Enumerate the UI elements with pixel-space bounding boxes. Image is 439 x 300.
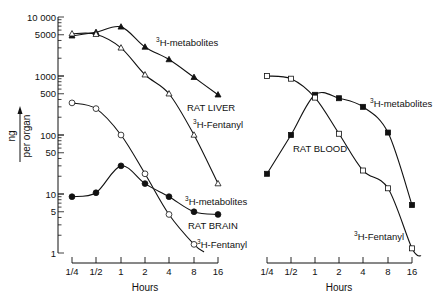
data-point-triangle	[142, 44, 148, 49]
data-point-circle	[93, 106, 99, 112]
data-point-triangle	[215, 180, 221, 185]
annot-liver-fentanyl: 3H-Fentanyl	[193, 118, 243, 130]
y-axis: 10 00050001000500100501051	[27, 12, 64, 259]
data-point-circle	[93, 190, 99, 196]
y-tick-label: 1000	[35, 71, 56, 82]
x-axis-title-left: Hours	[132, 282, 159, 293]
annot-brain-metabolites: 3H-metabolites	[185, 195, 247, 207]
y-tick-label: 5000	[35, 29, 56, 40]
data-point-square	[386, 186, 391, 191]
data-point-square	[265, 171, 270, 176]
data-point-square	[289, 133, 294, 138]
data-point-square	[361, 104, 366, 109]
data-point-circle	[142, 181, 148, 187]
data-point-circle	[166, 194, 172, 200]
data-point-square	[361, 168, 366, 173]
x-tick-label: 4	[360, 266, 365, 277]
data-point-triangle	[191, 74, 197, 79]
annot-rat-brain: RAT BRAIN	[188, 220, 238, 231]
data-point-square	[410, 203, 415, 208]
data-point-circle	[69, 194, 75, 200]
x-axis-title-right: Hours	[326, 282, 353, 293]
y-tick-label: 500	[40, 88, 56, 99]
y-axis-title: ng per organ	[6, 106, 32, 162]
x-tick-label: 1	[312, 266, 317, 277]
data-point-square	[410, 246, 415, 251]
data-point-square	[337, 131, 342, 136]
arrow-up-icon	[18, 106, 23, 114]
data-point-square	[313, 95, 318, 100]
x-tick-label: 16	[407, 266, 418, 277]
y-tick-label: 5	[51, 206, 56, 217]
data-point-circle	[166, 212, 172, 218]
x-tick-label: 16	[213, 266, 224, 277]
series-rat-liver-3h-metabolites	[69, 24, 221, 97]
data-point-circle	[215, 212, 221, 218]
x-tick-label: 1/4	[260, 266, 273, 277]
data-point-circle	[69, 100, 75, 106]
y-label-per-organ: per organ	[21, 115, 32, 158]
series-layer	[69, 24, 421, 256]
annot-blood-metabolites: 3H-metabolites	[370, 97, 432, 109]
x-tick-label: 4	[166, 266, 171, 277]
y-tick-label: 10	[45, 189, 56, 200]
x-tick-label: 1	[118, 266, 123, 277]
data-point-square	[289, 76, 294, 81]
data-point-circle	[191, 209, 197, 215]
x-tick-label: 8	[385, 266, 390, 277]
y-tick-label: 10 000	[27, 12, 56, 23]
annot-liver-metabolites: 3H-metabolites	[156, 36, 218, 48]
x-tick-label: 1/2	[284, 266, 297, 277]
x-tick-label: 8	[191, 266, 196, 277]
annot-rat-liver: RAT LIVER	[187, 102, 235, 113]
data-point-triangle	[166, 56, 172, 61]
data-point-circle	[118, 163, 124, 169]
annot-rat-blood: RAT BLOOD	[293, 143, 347, 154]
x-axis-right: 1/41/2124816	[260, 257, 417, 277]
data-point-square	[386, 130, 391, 135]
y-tick-label: 50	[45, 147, 56, 158]
annot-brain-fentanyl: 3H-Fentanyl	[197, 238, 247, 250]
data-point-triangle	[191, 132, 197, 137]
data-point-square	[265, 74, 270, 79]
data-point-circle	[142, 171, 148, 177]
y-tick-label: 100	[40, 130, 56, 141]
data-point-triangle	[118, 45, 124, 50]
x-tick-label: 2	[336, 266, 341, 277]
annot-blood-fentanyl: 3H-Fentanyl	[354, 230, 404, 242]
x-tick-label: 1/2	[89, 266, 102, 277]
x-tick-label: 2	[142, 266, 147, 277]
x-axis-left: 1/41/2124816	[65, 257, 223, 277]
data-point-triangle	[215, 92, 221, 97]
pharmacokinetics-chart: 10 00050001000500100501051 ng per organ …	[0, 0, 439, 300]
data-point-square	[337, 96, 342, 101]
data-point-circle	[118, 132, 124, 138]
y-tick-label: 1	[51, 248, 56, 259]
y-label-ng: ng	[6, 130, 17, 141]
x-tick-label: 1/4	[65, 266, 78, 277]
